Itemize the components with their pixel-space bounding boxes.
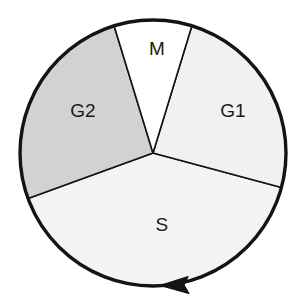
pie-label-s: S	[156, 214, 169, 235]
pie-label-m: M	[149, 38, 165, 59]
cell-cycle-diagram: M G1 S G2	[0, 0, 306, 294]
cell-cycle-pie-chart: M G1 S G2	[0, 0, 306, 294]
pie-label-g1: G1	[220, 100, 246, 121]
pie-label-g2: G2	[70, 100, 96, 121]
